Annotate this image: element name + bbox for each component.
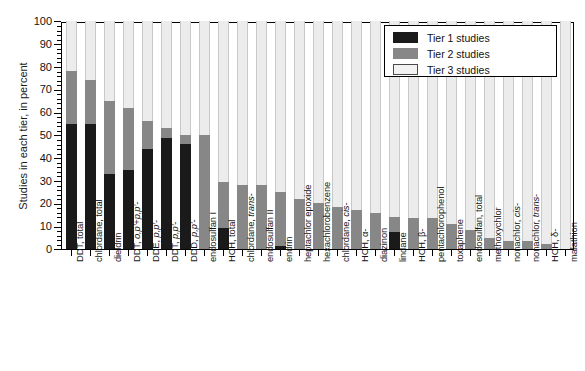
x-tick-label: chlordane, cis- (341, 203, 351, 263)
x-tick (90, 250, 91, 256)
bar-segment-tier3 (370, 21, 381, 213)
x-tick-label: DDT, o,p'+p,p'- (132, 202, 142, 262)
x-tick-label: HCH, total (227, 220, 237, 262)
x-tick (147, 250, 148, 256)
bar-endrin (275, 21, 286, 249)
legend-swatch-tier1 (393, 32, 418, 43)
bar-segment-tier3 (275, 21, 286, 192)
bar-segment-tier3 (351, 21, 362, 210)
legend-swatch-tier3 (393, 64, 418, 75)
bar-ddt-p-p- (161, 21, 172, 249)
y-tick-major (54, 249, 61, 250)
legend-item-tier1: Tier 1 studies (393, 30, 556, 45)
bar-segment-tier3 (560, 21, 571, 249)
x-tick-label: malathion (569, 222, 579, 262)
chart-root: Studies in each tier, in percent 0102030… (0, 0, 585, 371)
bar-ddd-p-p- (180, 21, 191, 249)
x-tick-label: DDE, p,p'- (151, 220, 161, 262)
legend-label-tier2: Tier 2 studies (427, 48, 490, 60)
bar-segment-tier2 (142, 121, 153, 148)
x-tick (337, 250, 338, 256)
x-tick (356, 250, 357, 256)
bar-segment-tier3 (256, 21, 267, 185)
bar-hch-total (218, 21, 229, 249)
x-tick (242, 250, 243, 256)
y-tick-label: 10 (24, 221, 52, 232)
x-tick (432, 250, 433, 256)
bar-segment-tier2 (180, 135, 191, 144)
x-tick-label: HCH, β- (417, 229, 427, 262)
x-tick (261, 250, 262, 256)
legend-item-tier2: Tier 2 studies (393, 46, 556, 61)
y-tick-major (54, 67, 61, 68)
legend-label-tier3: Tier 3 studies (427, 64, 490, 76)
x-tick-label: pentachlorophenol (436, 187, 446, 262)
x-tick-label: HCH, δ- (550, 229, 560, 262)
y-tick-label: 30 (24, 176, 52, 187)
x-tick-label: heptachlor epoxide (303, 185, 313, 262)
x-tick-label: toxaphene (455, 219, 465, 262)
x-tick-label: endrin (284, 237, 294, 262)
y-tick-major (54, 204, 61, 205)
bar-segment-tier3 (104, 21, 115, 101)
x-tick-label: DDT, p,p'- (170, 222, 180, 262)
bar-segment-tier3 (237, 21, 248, 185)
legend-swatch-tier2 (393, 48, 418, 59)
x-tick-label: diazinon (379, 228, 389, 262)
x-tick (185, 250, 186, 256)
bar-segment-tier3 (142, 21, 153, 121)
y-tick-major (54, 21, 61, 22)
y-tick-label: 100 (24, 16, 52, 27)
x-tick (508, 250, 509, 256)
bar-segment-tier2 (85, 80, 96, 123)
x-tick (128, 250, 129, 256)
bar-segment-tier2 (66, 71, 77, 123)
y-tick-label: 40 (24, 153, 52, 164)
y-tick-label: 60 (24, 107, 52, 118)
x-tick (223, 250, 224, 256)
bar-segment-tier3 (218, 21, 229, 182)
bar-segment-tier3 (294, 21, 305, 199)
bar-diazinon (370, 21, 381, 249)
x-tick-label: nonachlor, trans- (531, 194, 541, 262)
bar-segment-tier2 (104, 101, 115, 174)
x-tick (413, 250, 414, 256)
bar-segment-tier3 (313, 21, 324, 203)
x-tick (394, 250, 395, 256)
x-tick-label: DDT, total (75, 222, 85, 262)
x-tick-label: endosulfan, total (474, 195, 484, 262)
chart-legend: Tier 1 studies Tier 2 studies Tier 3 stu… (384, 25, 557, 77)
bar-hch- (351, 21, 362, 249)
y-tick-label: 50 (24, 130, 52, 141)
y-tick-major (54, 90, 61, 91)
bar-segment-tier3 (332, 21, 343, 207)
x-tick-label: methoxychlor (493, 207, 503, 262)
y-tick-label: 70 (24, 84, 52, 95)
x-tick (375, 250, 376, 256)
bar-segment-tier3 (85, 21, 96, 80)
x-tick (299, 250, 300, 256)
x-tick (71, 250, 72, 256)
x-tick (166, 250, 167, 256)
x-tick-label: DDD, p,p'- (189, 220, 199, 263)
x-tick (527, 250, 528, 256)
x-tick-label: chlordane, total (94, 199, 104, 262)
x-tick-label: chlordane, trans- (246, 193, 256, 262)
legend-item-tier3: Tier 3 studies (393, 62, 556, 77)
x-tick-label: HCH, α- (360, 229, 370, 262)
y-tick-major (54, 113, 61, 114)
bar-segment-tier2 (123, 108, 134, 171)
y-tick-label: 80 (24, 62, 52, 73)
bar-dieldrin (104, 21, 115, 249)
x-tick-label: lindane (398, 232, 408, 262)
y-tick-major (54, 158, 61, 159)
x-tick-label: endosulfan I (208, 212, 218, 262)
x-tick-label: hexachlorobenzene (322, 182, 332, 262)
bar-dde-p-p- (142, 21, 153, 249)
x-tick (489, 250, 490, 256)
x-tick (109, 250, 110, 256)
y-tick-major (54, 227, 61, 228)
bar-segment-tier3 (199, 21, 210, 135)
y-tick-major (54, 44, 61, 45)
legend-label-tier1: Tier 1 studies (427, 32, 490, 44)
